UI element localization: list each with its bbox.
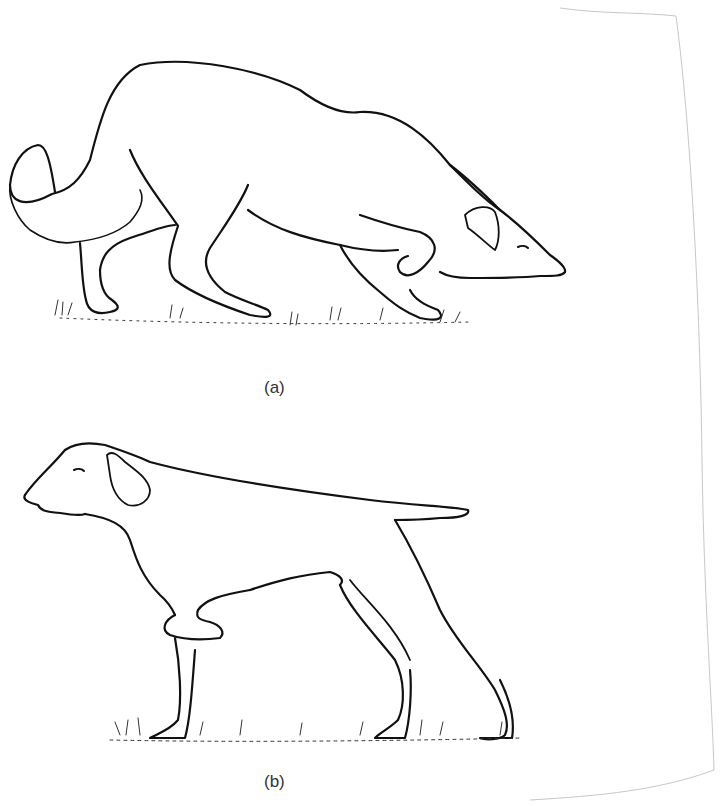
dog-illustration-figure: (a) (b) (0, 0, 722, 806)
dog-b-icon (24, 443, 520, 741)
caption-panel-a: (a) (264, 378, 285, 398)
figure-artwork (0, 0, 722, 806)
paper-edge-line (530, 8, 714, 800)
caption-panel-b: (b) (264, 772, 285, 792)
dog-a-icon (10, 62, 565, 325)
